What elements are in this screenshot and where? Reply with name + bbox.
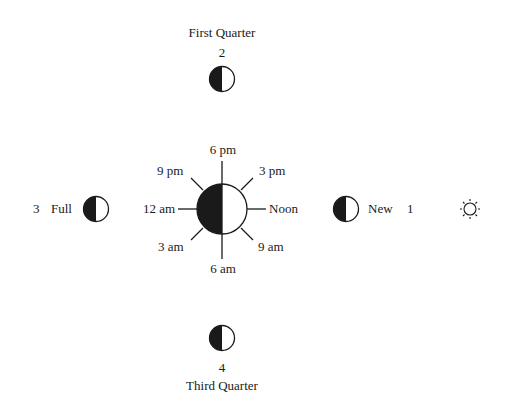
phase-name-new: New bbox=[368, 202, 393, 216]
time-label-6am: 6 am bbox=[210, 262, 236, 276]
time-label-3am: 3 am bbox=[158, 240, 184, 254]
phase-number-2: 2 bbox=[219, 46, 226, 60]
phase-name-full: Full bbox=[51, 202, 72, 216]
time-label-3pm: 3 pm bbox=[259, 164, 285, 178]
moon-phase-diagram bbox=[0, 0, 505, 412]
time-label-6pm: 6 pm bbox=[210, 143, 236, 157]
earth-icon bbox=[197, 184, 247, 234]
phase-number-3: 3 bbox=[33, 202, 40, 216]
moon-first-quarter-icon bbox=[210, 67, 235, 92]
sun-icon bbox=[460, 199, 480, 219]
moon-full-icon bbox=[84, 196, 109, 221]
time-label-9pm: 9 pm bbox=[157, 164, 183, 178]
phase-name-first-quarter: First Quarter bbox=[189, 26, 256, 40]
time-label-12am: 12 am bbox=[143, 202, 175, 216]
phase-name-third-quarter: Third Quarter bbox=[186, 379, 258, 393]
time-label-noon: Noon bbox=[269, 202, 298, 216]
phase-number-4: 4 bbox=[219, 361, 226, 375]
time-label-9am: 9 am bbox=[258, 240, 284, 254]
moon-third-quarter-icon bbox=[210, 326, 235, 351]
moon-new-icon bbox=[334, 196, 359, 221]
phase-number-1: 1 bbox=[407, 202, 414, 216]
